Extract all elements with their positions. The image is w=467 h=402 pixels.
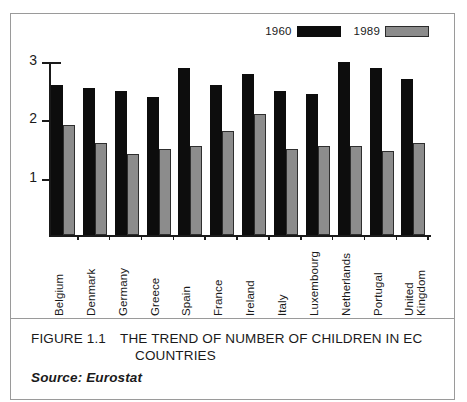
bar-1960 [178,68,190,235]
bar-1960 [338,62,350,235]
bar-1989 [382,151,394,235]
caption-block: FIGURE 1.1THE TREND OF NUMBER OF CHILDRE… [31,330,443,385]
bar-group [242,62,272,235]
bar-group [210,62,240,235]
gray-swatch-icon [385,26,429,37]
y-tick-label-2: 2 [29,111,37,125]
bar-groups [51,62,431,235]
category-label: Germany [115,240,145,316]
y-tick-1: 1 [42,179,51,181]
bar-1989 [413,143,425,235]
y-tick-label-1: 1 [29,170,37,184]
bar-group [115,62,145,235]
caption-separator [11,318,455,319]
legend-label-1960: 1960 [265,26,291,38]
bar-group [401,62,431,235]
black-swatch-icon [297,26,341,37]
category-label-text: Luxembourg [308,251,320,316]
category-label: Greece [147,240,177,316]
bar-1960 [210,85,222,235]
bar-1960 [401,79,413,235]
bar-1989 [286,149,298,236]
bar-1960 [51,85,63,235]
category-label-text: Ireland [244,280,256,316]
category-label: Italy [274,240,304,316]
bar-group [370,62,400,235]
bar-group [83,62,113,235]
bar-group [51,62,81,235]
category-label-text: Germany [117,268,129,316]
legend-entry-1989: 1989 [354,26,429,38]
chart-legend: 1960 1989 [265,26,429,38]
bar-1960 [147,97,159,235]
category-label: Spain [178,240,208,316]
bar-1960 [306,94,318,235]
plot-region: 3 2 1 [49,62,431,237]
category-label-text: Italy [276,294,288,316]
category-label-text: Portugal [372,272,384,316]
bar-group [178,62,208,235]
y-tick-2: 2 [42,120,51,122]
category-label-text: UnitedKingdom [403,242,427,316]
source-line: Source: Eurostat [31,370,443,385]
figure-number: FIGURE 1.1 [31,331,106,346]
category-label: UnitedKingdom [401,240,431,316]
category-label: Denmark [83,240,113,316]
chart-area: 1960 1989 3 2 1 BelgiumDenmar [11,14,455,318]
category-label: France [210,240,240,316]
figure-caption: FIGURE 1.1THE TREND OF NUMBER OF CHILDRE… [31,330,443,364]
bar-1989 [190,146,202,235]
category-label: Ireland [242,240,272,316]
bar-1960 [370,68,382,235]
category-label-text: Denmark [85,269,97,316]
category-axis-labels: BelgiumDenmarkGermanyGreeceSpainFranceIr… [51,240,431,316]
bar-group [338,62,368,235]
bar-1989 [63,125,75,235]
bar-1989 [127,154,139,235]
category-label: Belgium [51,240,81,316]
bar-group [274,62,304,235]
legend-label-1989: 1989 [354,26,380,38]
bar-1989 [159,149,171,236]
figure-title: THE TREND OF NUMBER OF CHILDREN IN EC CO… [120,331,422,363]
category-label-text: Spain [180,286,192,316]
bar-1989 [318,146,330,235]
figure-frame: 1960 1989 3 2 1 BelgiumDenmar [10,13,455,400]
category-label: Netherlands [338,240,368,316]
bar-1960 [242,74,254,235]
bar-1989 [350,146,362,235]
y-tick-label-3: 3 [29,53,37,67]
bar-group [147,62,177,235]
bar-1960 [274,91,286,235]
y-tick-3: 3 [42,62,51,64]
x-axis-line [49,235,431,237]
category-label: Portugal [370,240,400,316]
bar-group [306,62,336,235]
category-label-text: Belgium [53,274,65,316]
bar-1960 [83,88,95,235]
legend-entry-1960: 1960 [265,26,340,38]
category-label-text: Greece [149,278,161,316]
category-label-text: France [212,280,224,316]
bar-1989 [254,114,266,235]
category-label: Luxembourg [306,240,336,316]
bar-1960 [115,91,127,235]
category-label-text: Netherlands [340,253,352,316]
bar-1989 [95,143,107,235]
bar-1989 [222,131,234,235]
